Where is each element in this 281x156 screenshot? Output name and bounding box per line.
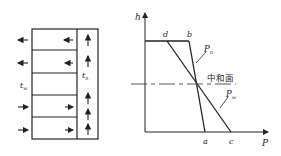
stack-effect-diagram: tw tn h P 中和面 d b a c Pn Pw: [0, 0, 281, 156]
indoor-pressure-label: Pn: [203, 44, 213, 55]
point-a-label: a: [203, 137, 208, 146]
indoor-pressure-line: [189, 41, 205, 132]
point-c-label: c: [229, 137, 234, 146]
outdoor-temp-label: tw: [20, 81, 28, 91]
p-axis-label: P: [261, 138, 269, 148]
point-b-label: b: [187, 30, 192, 39]
pressure-chart: h P 中和面 d b a c Pn Pw: [131, 12, 269, 148]
indoor-temp-label: tn: [82, 71, 88, 81]
neutral-plane-label: 中和面: [207, 73, 234, 83]
outdoor-pressure-line: [167, 41, 231, 132]
outdoor-pressure-label: Pw: [225, 89, 237, 100]
h-axis-label: h: [135, 12, 141, 22]
point-d-label: d: [163, 30, 168, 39]
